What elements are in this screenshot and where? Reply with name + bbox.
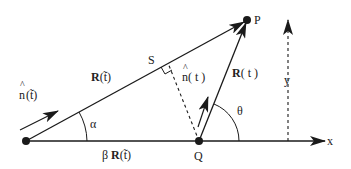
label-q: Q <box>194 149 203 163</box>
vector-r-t <box>199 23 246 141</box>
label-x: x <box>327 134 333 148</box>
label-r-t: R( t ) <box>232 66 258 80</box>
label-p: P <box>254 13 261 27</box>
label-theta: θ <box>237 104 243 118</box>
label-alpha: α <box>90 117 97 131</box>
point-q <box>195 137 203 145</box>
origin-point <box>22 137 30 145</box>
label-y: y <box>284 73 290 87</box>
label-r-tilde: R(t̃) <box>91 70 111 84</box>
vector-r-tilde <box>26 22 244 141</box>
label-s: S <box>148 53 155 67</box>
alpha-angle-arc <box>79 112 87 141</box>
svg-text:n(t̃): n(t̃) <box>19 88 37 102</box>
theta-angle-arc <box>214 104 239 141</box>
svg-text:n( t ): n( t ) <box>182 70 205 84</box>
label-beta-r-tilde: β R(t̃) <box>102 148 131 162</box>
vector-diagram: P S Q x y α θ ^ n(t̃) R(t̃) β R(t̃) ^ n(… <box>0 0 351 169</box>
label-n-hat-t: ^ n( t ) <box>182 62 205 84</box>
label-n-hat-tilde: ^ n(t̃) <box>19 79 37 102</box>
point-p <box>243 16 251 24</box>
